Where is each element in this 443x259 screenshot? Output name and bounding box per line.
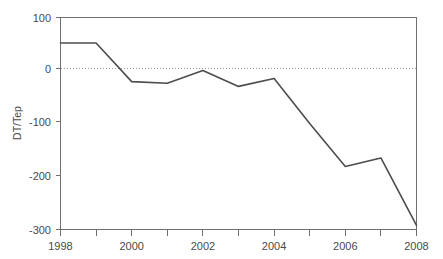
x-tick-label-1998: 1998 <box>48 240 72 252</box>
y-axis-ticks <box>56 18 61 230</box>
line-chart-figure: 100 0 -100 -200 -300 DT/Tep 1998 2000 2 <box>0 0 443 259</box>
x-tick-label-2006: 2006 <box>333 240 357 252</box>
y-axis-title: DT/Tep <box>11 106 23 140</box>
frame-rect <box>61 18 417 230</box>
y-tick-label-100: 100 <box>33 12 51 24</box>
chart-canvas: 100 0 -100 -200 -300 DT/Tep 1998 2000 2 <box>0 0 443 259</box>
x-axis-tick-labels: 1998 2000 2002 2004 2006 2008 <box>48 240 428 252</box>
x-tick-label-2000: 2000 <box>119 240 143 252</box>
y-tick-label-0: 0 <box>45 63 51 75</box>
x-tick-label-2002: 2002 <box>191 240 215 252</box>
plot-frame <box>61 18 417 230</box>
data-series-line <box>61 43 417 225</box>
y-tick-label-minus300: -300 <box>29 224 51 236</box>
y-tick-label-minus200: -200 <box>29 170 51 182</box>
y-axis-tick-labels: 100 0 -100 -200 -300 <box>29 12 51 236</box>
x-tick-label-2004: 2004 <box>262 240 286 252</box>
x-tick-label-2008: 2008 <box>404 240 428 252</box>
x-axis-ticks <box>61 230 417 236</box>
y-tick-label-minus100: -100 <box>29 116 51 128</box>
